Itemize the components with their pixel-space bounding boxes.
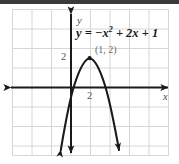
x-axis-label: x xyxy=(163,92,168,103)
equation-lhs: y = xyxy=(76,26,92,40)
equation-exponent: 2 xyxy=(109,25,113,34)
y-axis-label: y xyxy=(77,16,82,27)
equation-term3: + 1 xyxy=(142,26,159,40)
y-tick-label-2: 2 xyxy=(61,52,66,63)
vertex-annotation-label: (1, 2) xyxy=(95,45,117,55)
coordinate-plane xyxy=(0,0,179,164)
equation-term2: + 2x xyxy=(116,26,139,40)
graph-figure: y = −x2 + 2x + 1 (1, 2) 2 2 y x xyxy=(0,0,179,164)
vertex-dot xyxy=(88,56,92,60)
equation-label: y = −x2 + 2x + 1 xyxy=(76,27,158,40)
equation-term1: −x xyxy=(95,26,109,40)
x-tick-label-2: 2 xyxy=(87,91,92,102)
